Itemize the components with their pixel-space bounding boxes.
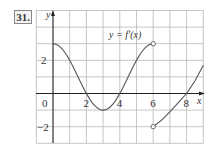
x-tick-label: 8: [184, 97, 190, 109]
curves: [53, 42, 203, 129]
open-circle-icon: [151, 42, 155, 46]
derivative-graph: y x y = f′(x) 024682−2: [0, 0, 215, 150]
curve-series-2: [153, 65, 203, 126]
y-tick-label: 2: [41, 54, 47, 66]
y-tick-label: −2: [37, 121, 49, 133]
y-axis-label: y: [45, 9, 51, 20]
open-circle-icon: [151, 125, 155, 129]
x-axis-label: x: [196, 95, 202, 106]
x-tick-label: 4: [117, 97, 123, 109]
x-tick-label: 0: [42, 97, 48, 109]
x-tick-label: 2: [83, 97, 89, 109]
x-tick-label: 6: [150, 97, 156, 109]
curve-label: y = f′(x): [108, 29, 142, 41]
